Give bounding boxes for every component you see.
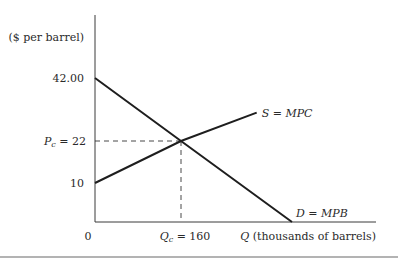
equilibrium-quantity-label: Qc = 160: [160, 230, 211, 244]
price-rest: = 22: [56, 135, 86, 148]
qty-rest: = 160: [173, 230, 210, 243]
qty-var: Q: [160, 230, 169, 243]
x-axis-units: (thousands of barrels): [249, 230, 376, 243]
origin-label: 0: [85, 230, 92, 243]
demand-mpb: MPB: [320, 207, 348, 220]
x-axis-var: Q: [240, 230, 249, 243]
demand-curve: [95, 78, 292, 222]
demand-var: D: [295, 207, 305, 220]
supply-mpc: MPC: [284, 107, 313, 120]
supply-curve-label: S = MPC: [262, 107, 313, 120]
supply-eq: =: [269, 107, 285, 120]
equilibrium-price-label: Pc = 22: [43, 135, 86, 149]
demand-curve-label: D = MPB: [295, 207, 348, 220]
supply-demand-chart: ($ per barrel) 42.00 10 0 Pc = 22 Qc = 1…: [0, 0, 398, 259]
demand-eq: =: [305, 207, 321, 220]
supply-curve: [95, 113, 257, 183]
x-axis-label: Q (thousands of barrels): [240, 230, 376, 243]
y-axis-label: ($ per barrel): [8, 31, 84, 44]
y-tick-label-42: 42.00: [53, 72, 85, 85]
y-tick-label-10: 10: [70, 177, 84, 190]
